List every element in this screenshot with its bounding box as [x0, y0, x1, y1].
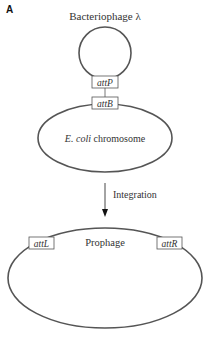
chromosome-label: E. coli chromosome: [64, 133, 146, 144]
arrow-head-icon: [102, 209, 108, 217]
attr-label: attR: [162, 239, 178, 249]
prophage-label: Prophage: [85, 237, 125, 248]
integration-diagram: A Bacteriophage λ attP attB E. coli chro…: [0, 0, 206, 337]
attp-label: attP: [97, 78, 113, 88]
attl-label: attL: [34, 239, 49, 249]
panel-label: A: [6, 4, 13, 15]
integration-label: Integration: [113, 189, 157, 200]
phage-genome-circle: [79, 27, 131, 79]
phage-title: Bacteriophage λ: [69, 10, 141, 22]
attb-label: attB: [97, 99, 113, 109]
